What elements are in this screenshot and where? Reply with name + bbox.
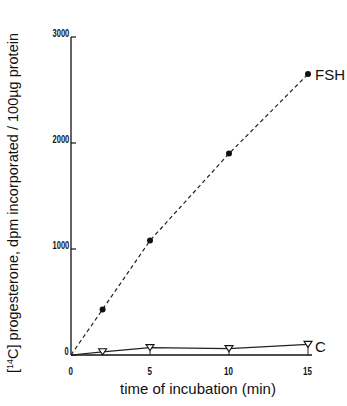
y-tick-label: 3000 [52, 28, 69, 39]
y-tick-label: 1000 [52, 240, 69, 251]
data-point [147, 238, 153, 244]
x-tick-label: 10 [224, 366, 233, 377]
series-label-c: C [315, 338, 326, 355]
chart-plot [0, 0, 347, 406]
series-line-fsh [71, 74, 308, 355]
data-point [100, 306, 106, 312]
y-tick-label: 0 [65, 346, 69, 357]
x-axis-label: time of incubation (min) [120, 380, 276, 397]
x-tick-label: 5 [148, 366, 152, 377]
data-point [305, 71, 311, 77]
x-tick-label: 15 [303, 366, 312, 377]
y-tick-label: 2000 [52, 134, 69, 145]
data-point [226, 151, 232, 157]
x-tick-label: 0 [69, 366, 73, 377]
series-label-fsh: FSH [315, 66, 345, 83]
